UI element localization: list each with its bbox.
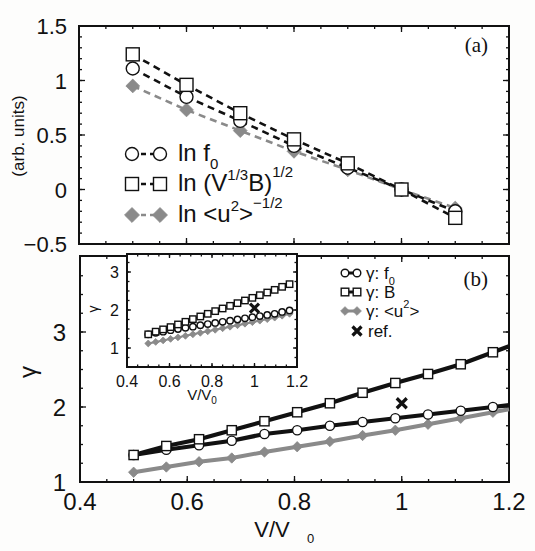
inset-xtick-label: 1 [250,373,259,390]
inset-square-marker [160,326,166,332]
inset-circle-marker [257,313,263,319]
panel-b-xtick-label: 0.8 [278,488,311,515]
xlabel-subscript: 0 [307,531,314,546]
panel-a-ytick-label: 1.5 [36,14,67,39]
panel-b-xtick-label: 0.4 [63,488,96,515]
chart-canvas: −0.500.511.5ln f0ln (V1/3B)1/2ln <u2>−1/… [0,0,535,551]
panel-b-circle-marker [423,410,432,419]
panel-a-square-marker [234,107,247,120]
inset-square-marker [249,295,255,301]
panel-b-square-marker [488,348,497,357]
inset-square-marker [227,303,233,309]
panel-b-square-marker [423,369,432,378]
inset-circle-marker [249,314,255,320]
panel-b-square-marker [162,441,171,450]
legend-label: γ: <u2> [366,298,419,321]
panel-b-ytick-label: 2 [53,394,66,421]
figure: −0.500.511.5ln f0ln (V1/3B)1/2ln <u2>−1/… [0,0,535,551]
legend-circle-marker [126,148,139,161]
legend-label: γ: B [366,283,395,302]
inset-square-marker [167,324,173,330]
inset-circle-marker [205,321,211,327]
panel-b-circle-marker [358,417,367,426]
inset-xtick-label: 0.6 [158,373,180,390]
inset-square-marker [271,287,277,293]
panel-a-ytick-label: 0.5 [36,123,67,148]
panel-a: −0.500.511.5ln f0ln (V1/3B)1/2ln <u2>−1/… [24,14,509,257]
panel-b-ylabel: γ [14,366,41,378]
legend-circle-marker [341,269,349,277]
panel-b-square-marker [325,399,334,408]
panel-b-circle-marker [293,426,302,435]
panel-b-xtick-label: 0.6 [171,488,204,515]
inset-square-marker [190,316,196,322]
inset-circle-marker [234,316,240,322]
inset-circle-marker [219,319,225,325]
inset-circle-marker [286,307,292,313]
inset-circle-marker [190,324,196,330]
panel-b-square-marker [358,388,367,397]
panel-b-square-marker [227,426,236,435]
panel-a-square-marker [341,157,354,170]
panel-b-circle-marker [260,429,269,438]
panel-a-square-marker [288,133,301,146]
panel-a-square-marker [395,183,408,196]
inset-square-marker [242,297,248,303]
panel-b-square-marker [129,450,138,459]
inset-circle-marker [264,312,270,318]
panel-a-square-marker [126,48,139,61]
inset-circle-marker [279,309,285,315]
inset-xtick-label: 1.2 [286,373,308,390]
panel-b-circle-marker [391,414,400,423]
panel-a-square-marker [449,211,462,224]
panel-b-square-marker [293,408,302,417]
inset-square-marker [219,305,225,311]
inset-square-marker [175,321,181,327]
inset-ytick-label: 2 [110,302,119,319]
panel-b-square-marker [194,435,203,444]
inset-square-marker [264,289,270,295]
inset-circle-marker [242,315,248,321]
inset-xtick-label: 0.4 [116,373,138,390]
legend-circle-marker [154,148,167,161]
inset-ylabel: γ [85,306,101,313]
inset-circle-marker [271,311,277,317]
panel-a-ytick-label: 0 [55,178,67,203]
inset-square-marker [257,292,263,298]
legend-square-marker [341,288,349,296]
inset-square-marker [205,311,211,317]
inset-circle-marker [197,322,203,328]
inset-square-marker [145,331,151,337]
inset-ytick-label: 1 [110,340,119,357]
panel-b-circle-marker [227,436,236,445]
inset-square-marker [152,328,158,334]
inset-ytick-label: 3 [110,264,119,281]
inset-square-marker [182,319,188,325]
panel-b-label: (b) [464,267,489,291]
panel-b-square-marker [456,360,465,369]
legend-square-marker [126,178,139,191]
panel-b-xlabel: V/V 0 [254,517,314,546]
legend-label: ref. [368,322,393,341]
inset-square-marker [286,281,292,287]
inset-square-marker [197,313,203,319]
panel-a-ytick-label: −0.5 [24,232,67,257]
panel-b-circle-marker [456,406,465,415]
inset-square-marker [234,300,240,306]
panel-b-circle-marker [488,402,497,411]
panel-a-circle-marker [180,90,193,103]
panel-a-label: (a) [465,33,488,57]
inset-square-marker [279,284,285,290]
panel-a-ylabel: (arb. units) [9,95,28,176]
inset-square-marker [212,308,218,314]
inset-circle-marker [227,317,233,323]
inset-circle-marker [212,320,218,326]
legend-square-marker [154,178,167,191]
panel-a-circle-marker [126,62,139,75]
panel-b-circle-marker [325,421,334,430]
panel-b-xtick-label: 1.2 [492,488,525,515]
panel-b-square-marker [391,378,400,387]
panel-b-ytick-label: 3 [53,319,66,346]
panel-b-xtick-label: 1 [395,488,408,515]
legend-circle-marker [353,269,361,277]
